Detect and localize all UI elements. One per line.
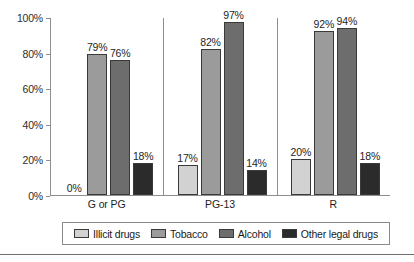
y-axis-line bbox=[50, 18, 51, 196]
bar[interactable] bbox=[337, 28, 357, 195]
bar[interactable] bbox=[178, 165, 198, 195]
category-label: R bbox=[330, 198, 337, 210]
bar[interactable] bbox=[360, 163, 380, 195]
bar-group: 20%92%94%18% bbox=[291, 17, 380, 195]
bar-value-label: 20% bbox=[291, 146, 311, 158]
group-separator bbox=[163, 18, 164, 196]
bar-value-label: 18% bbox=[133, 150, 153, 162]
y-axis-tick bbox=[46, 125, 50, 126]
bar-value-label: 94% bbox=[337, 15, 357, 27]
y-axis-tick-label: 100% bbox=[17, 12, 43, 24]
legend-item[interactable]: Other legal drugs bbox=[282, 228, 378, 240]
bar-group: 0%79%76%18% bbox=[64, 17, 153, 195]
legend-label: Alcohol bbox=[238, 228, 271, 240]
bar[interactable] bbox=[247, 170, 267, 195]
legend-item[interactable]: Tobacco bbox=[151, 228, 208, 240]
bar-group: 17%82%97%14% bbox=[178, 17, 267, 195]
bar-value-label: 18% bbox=[360, 150, 380, 162]
bar-value-label: 0% bbox=[67, 182, 82, 194]
legend-swatch-icon bbox=[74, 229, 89, 238]
chart-legend: Illicit drugsTobaccoAlcoholOther legal d… bbox=[62, 222, 390, 245]
bottom-divider bbox=[0, 254, 414, 255]
bar[interactable] bbox=[291, 159, 311, 195]
group-separator bbox=[277, 18, 278, 196]
bar[interactable] bbox=[314, 31, 334, 195]
x-axis-line bbox=[50, 195, 390, 196]
bar[interactable] bbox=[201, 49, 221, 195]
y-axis-tick-label: 0% bbox=[28, 190, 43, 202]
y-axis-tick-label: 60% bbox=[23, 83, 43, 95]
bar-value-label: 14% bbox=[246, 157, 266, 169]
bar[interactable] bbox=[87, 54, 107, 195]
bar[interactable] bbox=[133, 163, 153, 195]
bar-value-label: 79% bbox=[87, 41, 107, 53]
y-axis-tick bbox=[46, 196, 50, 197]
legend-swatch-icon bbox=[282, 229, 297, 238]
y-axis-tick-label: 20% bbox=[23, 154, 43, 166]
y-axis-tick-label: 40% bbox=[23, 119, 43, 131]
legend-item[interactable]: Alcohol bbox=[219, 228, 271, 240]
y-axis-tick bbox=[46, 89, 50, 90]
category-label: PG-13 bbox=[205, 198, 235, 210]
y-axis-tick bbox=[46, 54, 50, 55]
bar[interactable] bbox=[224, 22, 244, 195]
category-label: G or PG bbox=[88, 198, 126, 210]
bar-value-label: 92% bbox=[314, 18, 334, 30]
y-axis-tick bbox=[46, 160, 50, 161]
legend-label: Other legal drugs bbox=[301, 228, 378, 240]
bar[interactable] bbox=[110, 60, 130, 195]
legend-label: Tobacco bbox=[170, 228, 208, 240]
legend-label: Illicit drugs bbox=[93, 228, 140, 240]
bar-value-label: 82% bbox=[200, 36, 220, 48]
y-axis-tick-label: 80% bbox=[23, 48, 43, 60]
legend-swatch-icon bbox=[219, 229, 234, 238]
chart-figure: 0%20%40%60%80%100% 0%79%76%18%17%82%97%1… bbox=[0, 0, 414, 262]
bar-value-label: 97% bbox=[223, 9, 243, 21]
y-axis-tick bbox=[46, 18, 50, 19]
bar-value-label: 17% bbox=[177, 152, 197, 164]
legend-item[interactable]: Illicit drugs bbox=[74, 228, 140, 240]
bar-value-label: 76% bbox=[110, 47, 130, 59]
plot-area: 0%20%40%60%80%100% 0%79%76%18%17%82%97%1… bbox=[50, 18, 390, 196]
legend-swatch-icon bbox=[151, 229, 166, 238]
